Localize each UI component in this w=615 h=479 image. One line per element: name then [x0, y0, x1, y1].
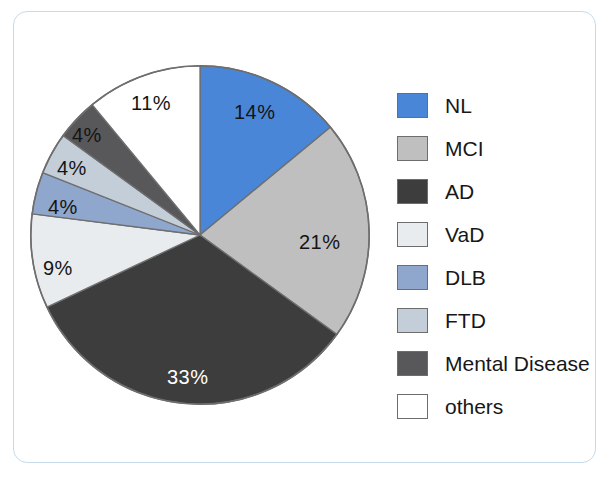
- legend-swatch-icon: [397, 179, 428, 204]
- pie-label-dlb: 4%: [48, 196, 78, 219]
- legend-item-mci[interactable]: MCI: [397, 127, 602, 170]
- legend-item-mental-disease[interactable]: Mental Disease: [397, 342, 602, 385]
- legend-item-label: MCI: [445, 138, 484, 159]
- legend-item-label: FTD: [445, 310, 486, 331]
- legend-swatch-icon: [397, 265, 428, 290]
- legend-swatch-icon: [397, 394, 428, 419]
- legend-item-label: NL: [445, 95, 472, 116]
- legend-swatch-icon: [397, 351, 428, 376]
- legend-item-label: VaD: [445, 224, 484, 245]
- legend-item-label: AD: [445, 181, 474, 202]
- legend-item-nl[interactable]: NL: [397, 84, 602, 127]
- pie-label-ad: 33%: [167, 366, 209, 389]
- pie-chart-figure: 14%21%33%9%4%4%4%11% NLMCIADVaDDLBFTDMen…: [0, 0, 615, 479]
- pie-label-ftd: 4%: [57, 157, 87, 180]
- pie-label-mci: 21%: [299, 231, 341, 254]
- legend-swatch-icon: [397, 308, 428, 333]
- legend-item-dlb[interactable]: DLB: [397, 256, 602, 299]
- legend-item-label: DLB: [445, 267, 486, 288]
- pie-label-vad: 9%: [43, 257, 73, 280]
- pie-label-nl: 14%: [234, 101, 276, 124]
- pie-label-mental-disease: 4%: [72, 124, 102, 147]
- legend-item-others[interactable]: others: [397, 385, 602, 428]
- chart-legend: NLMCIADVaDDLBFTDMental Diseaseothers: [397, 84, 602, 428]
- legend-item-label: others: [445, 396, 503, 417]
- legend-swatch-icon: [397, 222, 428, 247]
- legend-swatch-icon: [397, 136, 428, 161]
- legend-item-label: Mental Disease: [445, 353, 590, 374]
- legend-item-ad[interactable]: AD: [397, 170, 602, 213]
- legend-item-vad[interactable]: VaD: [397, 213, 602, 256]
- legend-swatch-icon: [397, 93, 428, 118]
- legend-item-ftd[interactable]: FTD: [397, 299, 602, 342]
- pie-label-others: 11%: [131, 92, 171, 115]
